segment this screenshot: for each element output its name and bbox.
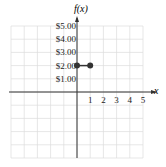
svg-text:1: 1 — [88, 95, 93, 105]
svg-text:5: 5 — [141, 95, 146, 105]
svg-text:4: 4 — [128, 95, 133, 105]
svg-text:2: 2 — [101, 95, 106, 105]
svg-text:$3.00: $3.00 — [56, 47, 77, 57]
chart: 12345$1.00$2.00$3.00$4.00$5.00 — [0, 0, 166, 167]
svg-text:$5.00: $5.00 — [56, 21, 77, 31]
svg-text:$2.00: $2.00 — [56, 61, 77, 71]
xlabel: x — [154, 85, 158, 96]
ylabel: f(x) — [74, 3, 88, 14]
svg-text:$1.00: $1.00 — [56, 74, 77, 84]
svg-text:3: 3 — [114, 95, 119, 105]
svg-text:$4.00: $4.00 — [56, 34, 77, 44]
